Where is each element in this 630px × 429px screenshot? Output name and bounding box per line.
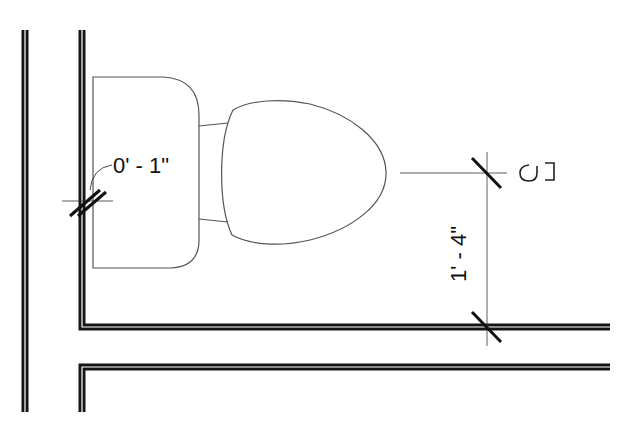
dimension-tank-clearance xyxy=(62,165,113,216)
inner-wall-lower xyxy=(82,367,610,412)
toilet-neck-top xyxy=(199,123,228,126)
centerline-symbol-icon xyxy=(520,163,554,181)
tank-clearance-label: 0' - 1" xyxy=(113,153,169,178)
inner-wall-upper xyxy=(82,30,610,327)
toilet-neck-bottom xyxy=(199,219,228,222)
plan-drawing: 0' - 1" 1' - 4" xyxy=(0,0,630,429)
walls xyxy=(25,30,610,412)
toilet-bowl xyxy=(222,101,386,245)
centerline-offset-label: 1' - 4" xyxy=(446,226,471,282)
